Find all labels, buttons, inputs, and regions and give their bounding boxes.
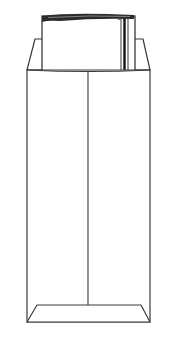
envelope-drawing (0, 0, 170, 344)
paper-stack-icon (42, 14, 135, 72)
envelope-illustration: Open-end envelope with documents (0, 0, 170, 344)
bottom-flap (27, 305, 150, 322)
envelope-body (27, 70, 150, 322)
